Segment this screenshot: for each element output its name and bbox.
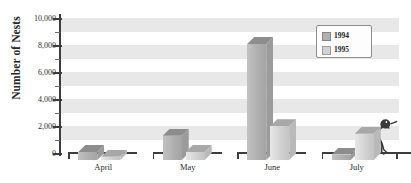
y-axis-minor-tick (55, 140, 60, 141)
legend-swatch (322, 32, 331, 41)
grid-band (61, 126, 399, 140)
bar-front-face (247, 44, 266, 160)
legend-label: 1995 (334, 45, 349, 54)
bar-side-face (289, 119, 296, 160)
y-axis-minor-tick (55, 86, 60, 87)
bar-front-face (163, 136, 182, 160)
y-axis-minor-tick (55, 32, 60, 33)
bar-front-face (101, 157, 120, 160)
y-axis-major-tick (53, 126, 62, 128)
chart-legend: 19941995 (316, 25, 372, 58)
bar (186, 145, 212, 160)
x-axis-category-label: May (158, 162, 218, 172)
y-axis-major-tick (53, 45, 62, 47)
y-axis-major-tick (53, 18, 62, 20)
y-axis-minor-tick (55, 59, 60, 60)
bar (101, 150, 127, 160)
bar (355, 127, 381, 160)
x-axis-baseline-segment (383, 152, 411, 154)
legend-swatch (322, 46, 331, 55)
bar (270, 119, 296, 160)
grid-band (61, 99, 399, 113)
x-axis-category-label: July (327, 162, 387, 172)
x-axis-category-label: June (242, 162, 302, 172)
x-axis-category-label: April (73, 162, 133, 172)
bar-front-face (355, 134, 374, 160)
x-axis-tick (153, 153, 155, 159)
x-axis-tick (322, 153, 324, 159)
bar-front-face (186, 152, 205, 160)
bar-front-face (332, 155, 351, 160)
y-axis-major-tick (53, 99, 62, 101)
legend-label: 1994 (334, 31, 349, 40)
y-axis-major-tick (53, 153, 62, 155)
x-axis-tick (237, 153, 239, 159)
grid-band (61, 72, 399, 86)
y-axis-minor-tick (55, 113, 60, 114)
y-axis-major-tick (53, 72, 62, 74)
y-axis-tick-labels: 02,0004,0006,0008,00010,000 (14, 0, 56, 183)
bar-front-face (78, 152, 97, 160)
bar-front-face (270, 126, 289, 160)
x-axis-tick (68, 153, 70, 159)
